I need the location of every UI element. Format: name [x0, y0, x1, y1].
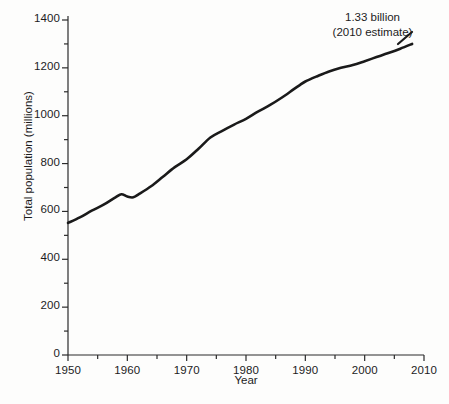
chart-canvas — [0, 0, 449, 404]
population-line-chart: Total population (millions) Year 1.33 bi… — [0, 0, 449, 404]
data-line-group — [68, 44, 412, 223]
y-tick-label: 1000 — [20, 108, 60, 120]
y-tick-label: 0 — [20, 347, 60, 359]
tick-marks — [62, 20, 424, 361]
axis-lines — [68, 16, 424, 355]
x-tick-label: 2000 — [340, 364, 390, 376]
x-tick-label: 1950 — [43, 364, 93, 376]
x-tick-label: 2010 — [399, 364, 449, 376]
x-tick-label: 1960 — [102, 364, 152, 376]
x-tick-label: 1980 — [221, 364, 271, 376]
annotation-callout: 1.33 billion (2010 estimate) — [300, 10, 445, 40]
y-tick-label: 200 — [20, 299, 60, 311]
x-tick-label: 1990 — [280, 364, 330, 376]
y-tick-label: 1400 — [20, 12, 60, 24]
y-tick-label: 400 — [20, 251, 60, 263]
y-tick-label: 800 — [20, 156, 60, 168]
y-tick-label: 1200 — [20, 60, 60, 72]
annotation-value: 1.33 billion — [300, 10, 445, 25]
y-tick-label: 600 — [20, 203, 60, 215]
annotation-note: (2010 estimate) — [300, 25, 445, 40]
x-tick-label: 1970 — [162, 364, 212, 376]
